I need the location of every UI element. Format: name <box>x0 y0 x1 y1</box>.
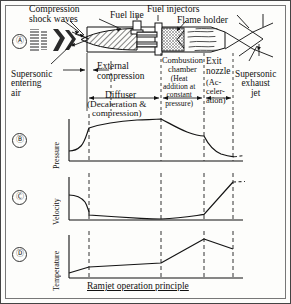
plot-velocity <box>69 173 245 220</box>
pressure-curve-dashed-tail <box>234 156 244 157</box>
plot-pressure <box>69 111 244 161</box>
pressure-curve <box>69 119 234 157</box>
figure-frame: Ⓐ <box>0 0 291 304</box>
station-dashed-lines-c <box>89 173 233 220</box>
station-dashed-lines-d <box>89 231 233 278</box>
plot-temperature <box>69 231 243 278</box>
figure-caption: Ramjet operation principle <box>87 281 189 291</box>
plots-vector <box>1 1 291 304</box>
velocity-curve-dashed-tail <box>233 182 245 183</box>
velocity-curve <box>69 182 233 219</box>
temperature-curve <box>69 239 233 273</box>
